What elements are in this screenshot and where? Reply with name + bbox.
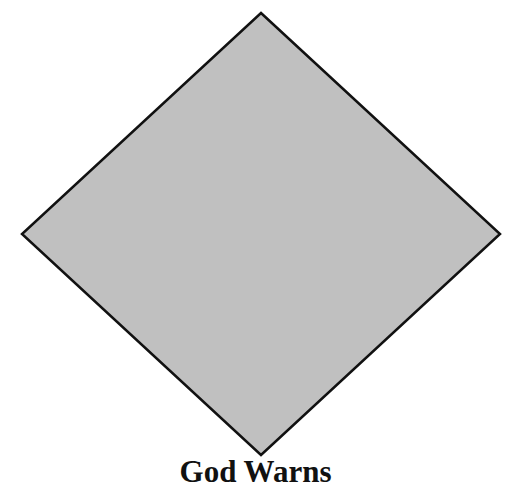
diamond-shape xyxy=(0,0,511,490)
diagram-caption: God Warns xyxy=(0,455,511,489)
diagram-canvas: God Warns xyxy=(0,0,511,490)
